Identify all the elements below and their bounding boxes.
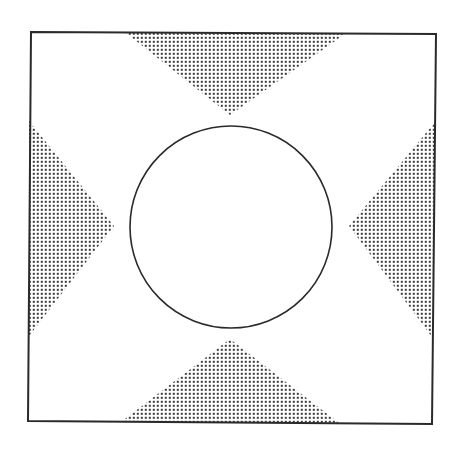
left-wedge (29, 121, 114, 336)
top-wedge (126, 33, 345, 115)
bottom-wedge (121, 339, 339, 423)
right-wedge (349, 122, 435, 337)
shaded-wedges (29, 33, 435, 423)
diagram-figure (0, 0, 467, 451)
center-circle (130, 126, 332, 328)
